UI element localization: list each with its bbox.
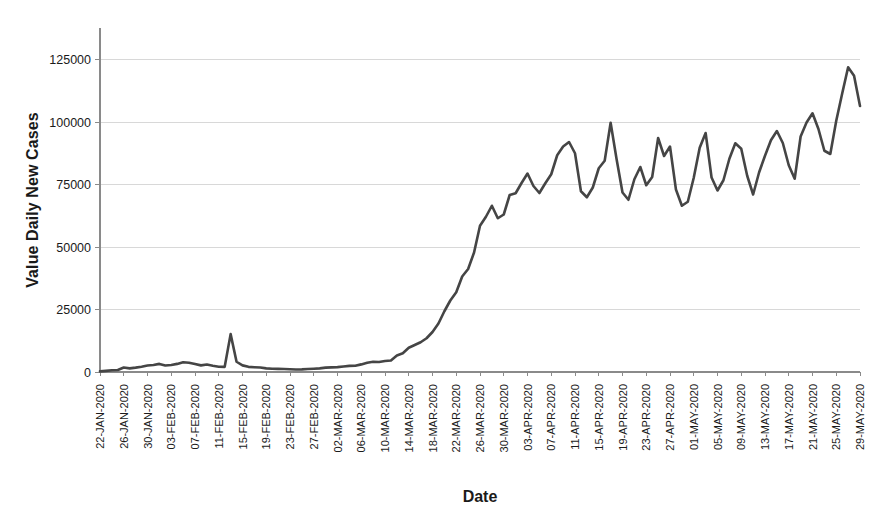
y-axis-ticks: 0250005000075000100000125000 [49, 53, 100, 380]
x-tick-label: 03-APR-2020 [522, 384, 534, 451]
x-tick-label: 02-MAR-2020 [332, 384, 344, 452]
x-tick-label: 10-MAR-2020 [379, 384, 391, 452]
x-tick-label: 06-MAR-2020 [355, 384, 367, 452]
x-tick-label: 17-MAY-2020 [783, 384, 795, 450]
x-tick-label: 01-MAY-2020 [688, 384, 700, 450]
y-tick-label: 100000 [49, 116, 91, 130]
x-tick-label: 19-APR-2020 [617, 384, 629, 451]
x-tick-label: 30-MAR-2020 [498, 384, 510, 452]
x-tick-label: 30-JAN-2020 [142, 384, 154, 449]
plot-area: 0250005000075000100000125000 22-JAN-2020… [0, 0, 881, 527]
x-tick-label: 21-MAY-2020 [807, 384, 819, 450]
x-tick-label: 27-APR-2020 [664, 384, 676, 451]
x-tick-label: 03-FEB-2020 [165, 384, 177, 449]
x-tick-label: 23-APR-2020 [640, 384, 652, 451]
x-tick-label: 13-MAY-2020 [759, 384, 771, 450]
x-tick-label: 18-MAR-2020 [427, 384, 439, 452]
x-tick-label: 15-APR-2020 [593, 384, 605, 451]
y-tick-label: 25000 [56, 303, 91, 317]
x-tick-label: 19-FEB-2020 [260, 384, 272, 449]
x-tick-label: 15-FEB-2020 [237, 384, 249, 449]
x-tick-label: 09-MAY-2020 [735, 384, 747, 450]
y-tick-label: 125000 [49, 53, 91, 67]
y-tick-label: 0 [84, 366, 91, 380]
gridlines [100, 60, 860, 373]
x-tick-label: 14-MAR-2020 [403, 384, 415, 452]
data-series-line [100, 67, 860, 371]
x-tick-label: 11-APR-2020 [569, 384, 581, 450]
x-tick-label: 07-APR-2020 [545, 384, 557, 451]
x-tick-label: 25-MAY-2020 [830, 384, 842, 450]
x-tick-label: 27-FEB-2020 [308, 384, 320, 449]
line-chart: Value Daily New Cases Date 0250005000075… [0, 0, 881, 527]
x-tick-label: 11-FEB-2020 [213, 384, 225, 449]
x-tick-label: 23-FEB-2020 [284, 384, 296, 449]
x-tick-label: 29-MAY-2020 [854, 384, 866, 450]
x-tick-label: 22-MAR-2020 [450, 384, 462, 452]
x-tick-label: 26-JAN-2020 [118, 384, 130, 449]
x-tick-label: 05-MAY-2020 [712, 384, 724, 450]
y-tick-label: 50000 [56, 241, 91, 255]
x-axis-ticks: 22-JAN-202026-JAN-202030-JAN-202003-FEB-… [94, 372, 866, 452]
x-tick-label: 22-JAN-2020 [94, 384, 106, 449]
x-tick-label: 07-FEB-2020 [189, 384, 201, 449]
x-tick-label: 26-MAR-2020 [474, 384, 486, 452]
y-tick-label: 75000 [56, 178, 91, 192]
